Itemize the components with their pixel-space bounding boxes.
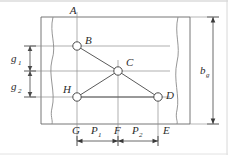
- dimension-label-P1: P 1: [90, 124, 102, 139]
- member-B-C: [77, 46, 118, 71]
- dimension-label-bg: b g: [200, 64, 210, 79]
- dimension-label-P2-base: P: [131, 124, 139, 136]
- break-line-right: [176, 17, 179, 124]
- point-label-D: D: [165, 89, 174, 101]
- dimension-label-P2-sub: 2: [139, 131, 143, 139]
- bolt-node-H[interactable]: [73, 93, 81, 101]
- dimension-label-g2-base: g: [11, 80, 17, 92]
- bolt-group-diagram: A B C D E F G H g 1 g 2 b g P 1 P 2: [0, 0, 228, 155]
- dimension-label-g1-base: g: [11, 52, 17, 64]
- point-label-G: G: [72, 124, 80, 136]
- dimension-label-g2-sub: 2: [18, 87, 22, 95]
- bolt-node-D[interactable]: [154, 93, 162, 101]
- dimension-P2: [118, 136, 158, 146]
- dimension-label-bg-sub: g: [206, 71, 210, 79]
- figure-root: A B C D E F G H g 1 g 2 b g P 1 P 2: [0, 0, 228, 155]
- point-label-E: E: [162, 124, 170, 136]
- dimension-label-g1: g 1: [11, 52, 22, 67]
- member-C-D: [118, 71, 158, 97]
- dimension-label-g1-sub: 1: [18, 59, 22, 67]
- dimension-label-g2: g 2: [11, 80, 22, 95]
- point-label-H: H: [62, 83, 72, 95]
- point-label-C: C: [126, 56, 134, 68]
- point-label-B: B: [85, 34, 92, 46]
- dimension-g1: [24, 46, 36, 71]
- dimension-g2: [24, 71, 36, 97]
- member-C-H: [77, 71, 118, 97]
- bolt-node-C[interactable]: [114, 67, 122, 75]
- dimension-label-P1-sub: 1: [98, 131, 102, 139]
- dimension-label-P1-base: P: [90, 124, 98, 136]
- dimension-label-P2: P 2: [131, 124, 143, 139]
- break-line-left: [51, 17, 54, 124]
- point-label-F: F: [113, 124, 121, 136]
- point-label-A: A: [69, 4, 77, 16]
- bolt-node-B[interactable]: [73, 42, 81, 50]
